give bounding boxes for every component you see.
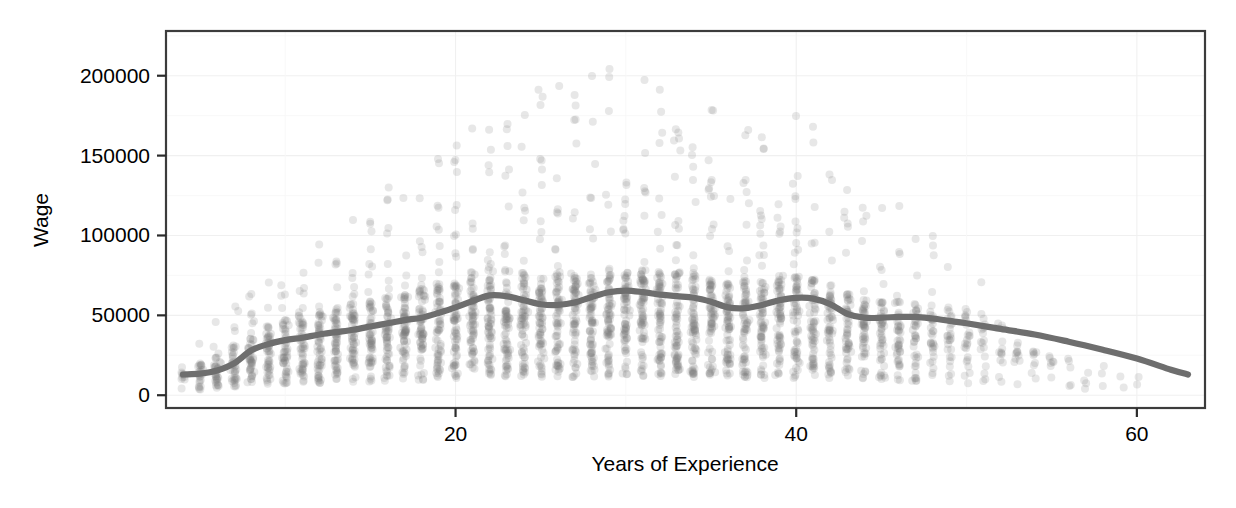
- y-tick-label: 150000: [80, 144, 150, 167]
- x-tick-label: 20: [444, 422, 467, 445]
- x-tick-label: 60: [1125, 422, 1148, 445]
- x-tick-label: 40: [785, 422, 808, 445]
- chart-container: 050000100000150000200000 204060 Years of…: [0, 0, 1236, 508]
- y-axis-title: Wage: [29, 193, 52, 247]
- x-axis-title: Years of Experience: [591, 452, 778, 475]
- y-tick-label: 100000: [80, 223, 150, 246]
- y-tick-label: 200000: [80, 64, 150, 87]
- y-tick-label: 0: [138, 383, 150, 406]
- wage-experience-scatterplot: 050000100000150000200000 204060 Years of…: [0, 0, 1236, 508]
- y-tick-label: 50000: [92, 303, 150, 326]
